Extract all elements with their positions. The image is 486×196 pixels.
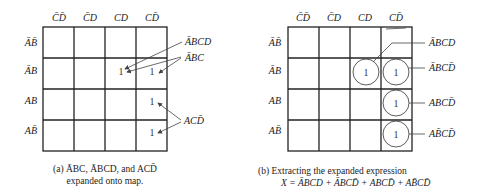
cell-value: 1: [150, 96, 155, 107]
cell-value: 1: [364, 67, 369, 78]
kmap-a: C̄D̄ C̄D CD CD̄ ĀB̄ ĀB AB AB̄ 1 1 1 1 ĀB…: [24, 12, 212, 186]
cell-value: 1: [119, 66, 124, 77]
row-label: ĀB̄: [268, 37, 281, 48]
caption-line1: (b) Extracting the expanded expression: [258, 166, 407, 177]
cell-value: 1: [394, 129, 399, 140]
caption-line2: X = ĀBCD + ĀBCD̄ + ABCD̄ + AB̄CD̄: [280, 177, 430, 188]
row-label: ĀB: [24, 65, 37, 76]
karnaugh-map-figure: C̄D̄ C̄D CD CD̄ ĀB̄ ĀB AB AB̄ 1 1 1 1 ĀB…: [0, 0, 486, 196]
col-label: CD̄: [145, 12, 160, 23]
col-label: C̄D: [83, 12, 98, 23]
annotation-label: ĀBC: [184, 52, 204, 63]
cell-value: 1: [394, 98, 399, 109]
col-label: C̄D̄: [52, 12, 67, 23]
col-label: CD: [358, 12, 373, 23]
annotation-label: ĀBCD̄: [428, 62, 456, 73]
annotation-label: ĀBCD: [184, 36, 212, 47]
kmap-b: C̄D̄ C̄D CD CD̄ ĀB̄ ĀB AB AB̄ 1 1 1 1: [258, 12, 456, 188]
cell-value: 1: [150, 66, 155, 77]
row-label: AB̄: [268, 125, 281, 136]
col-label: CD: [114, 12, 129, 23]
col-label: C̄D̄: [296, 12, 311, 23]
annotation-label: ĀBCD: [428, 37, 456, 48]
row-label: AB: [268, 95, 281, 106]
annotation-label: ABCD̄: [428, 97, 456, 108]
caption-line2: expanded onto map.: [67, 176, 144, 186]
cell-value: 1: [394, 67, 399, 78]
annotation-label: ACD̄: [183, 115, 205, 126]
col-label: C̄D: [327, 12, 342, 23]
row-label: AB: [24, 95, 37, 106]
annotation-label: AB̄CD̄: [428, 128, 456, 139]
caption-line1: (a) ĀBC, ĀBCD, and ACD̄: [53, 163, 157, 175]
row-label: AB̄: [24, 125, 37, 136]
col-label: CD̄: [389, 12, 404, 23]
kmap-grid: [43, 27, 167, 151]
row-label: ĀB: [268, 65, 281, 76]
row-label: ĀB̄: [24, 37, 37, 48]
cell-value: 1: [150, 127, 155, 138]
